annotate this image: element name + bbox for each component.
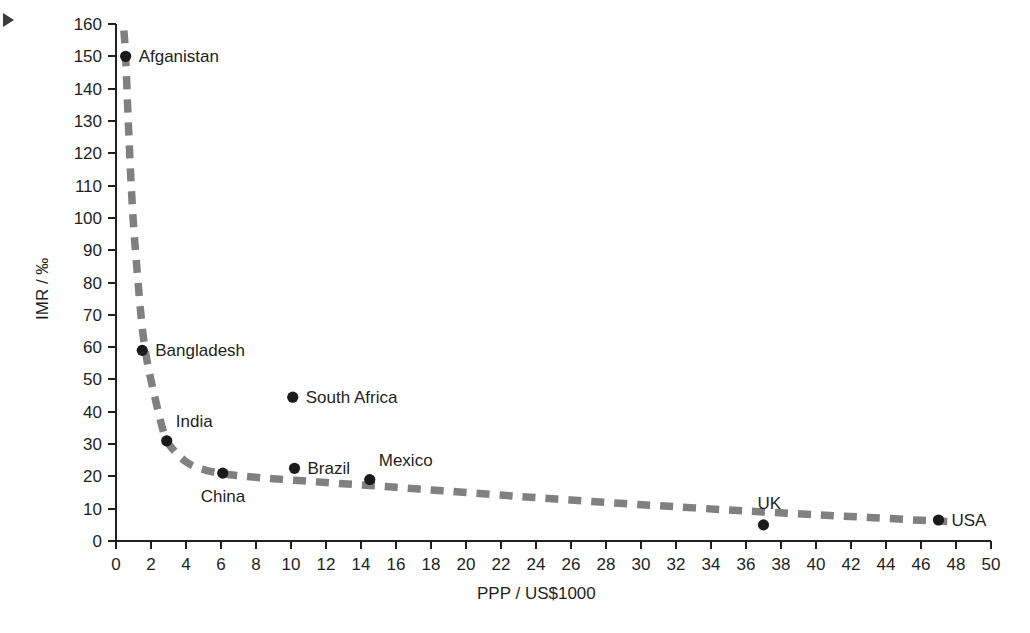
x-tick-label: 44: [877, 556, 896, 573]
y-axis-title: IMR / ‰: [34, 258, 51, 320]
data-point-label: India: [176, 412, 213, 429]
x-tick-label: 42: [842, 556, 861, 573]
x-tick-label: 6: [216, 556, 225, 573]
y-tick-label: 50: [0, 371, 102, 388]
data-point: [287, 392, 298, 403]
y-tick-label: 10: [0, 500, 102, 517]
data-point-label: Mexico: [379, 451, 433, 468]
x-tick-label: 24: [527, 556, 546, 573]
x-tick-label: 2: [146, 556, 155, 573]
y-tick-label: 0: [0, 533, 102, 550]
data-point-label: South Africa: [306, 389, 398, 406]
x-tick-label: 26: [562, 556, 581, 573]
x-tick-label: 18: [422, 556, 441, 573]
chart-figure: 0102030405060708090100110120130140150160…: [0, 0, 1030, 633]
y-tick-label: 140: [0, 80, 102, 97]
data-point-label: Afganistan: [139, 48, 219, 65]
axes: [108, 24, 991, 549]
data-point-label: Bangladesh: [155, 342, 245, 359]
x-tick-label: 12: [317, 556, 336, 573]
x-tick-label: 20: [457, 556, 476, 573]
x-tick-label: 34: [702, 556, 721, 573]
y-tick-label: 130: [0, 112, 102, 129]
data-point: [217, 468, 228, 479]
x-tick-label: 10: [282, 556, 301, 573]
data-point: [289, 463, 300, 474]
y-tick-label: 90: [0, 242, 102, 259]
y-tick-label: 100: [0, 209, 102, 226]
y-tick-label: 30: [0, 436, 102, 453]
x-tick-label: 32: [667, 556, 686, 573]
x-tick-label: 46: [912, 556, 931, 573]
data-point: [137, 345, 148, 356]
x-tick-label: 4: [181, 556, 190, 573]
x-tick-label: 36: [737, 556, 756, 573]
x-tick-label: 16: [387, 556, 406, 573]
x-tick-label: 0: [111, 556, 120, 573]
data-point: [364, 474, 375, 485]
x-tick-label: 50: [982, 556, 1001, 573]
y-tick-label: 150: [0, 48, 102, 65]
data-point-label: USA: [952, 511, 987, 528]
trend-line: [124, 30, 947, 521]
x-tick-label: 30: [632, 556, 651, 573]
x-tick-label: 28: [597, 556, 616, 573]
y-tick-label: 110: [0, 177, 102, 194]
x-tick-label: 22: [492, 556, 511, 573]
x-tick-label: 38: [772, 556, 791, 573]
data-point: [161, 435, 172, 446]
x-tick-label: 8: [251, 556, 260, 573]
y-tick-label: 120: [0, 145, 102, 162]
data-points: [120, 51, 944, 531]
data-point: [120, 51, 131, 62]
data-point-label: China: [201, 488, 245, 505]
x-tick-label: 14: [352, 556, 371, 573]
x-tick-label: 48: [947, 556, 966, 573]
x-tick-label: 40: [807, 556, 826, 573]
y-tick-label: 60: [0, 339, 102, 356]
y-tick-label: 160: [0, 16, 102, 33]
data-point-label: Brazil: [308, 460, 351, 477]
data-point: [758, 519, 769, 530]
x-axis-title: PPP / US$1000: [477, 585, 596, 602]
y-tick-label: 40: [0, 403, 102, 420]
data-point-label: UK: [758, 494, 782, 511]
data-point: [933, 514, 944, 525]
scatter-plot-svg: [0, 0, 1030, 633]
y-tick-label: 20: [0, 468, 102, 485]
